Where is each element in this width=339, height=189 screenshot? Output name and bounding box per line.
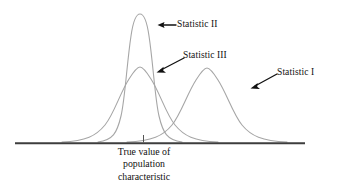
axis-caption-line-2: population	[84, 158, 204, 170]
axis-caption-line-3: characteristic	[84, 171, 204, 183]
arrow-statistic-i-icon	[251, 74, 278, 89]
arrow-statistic-iii-icon	[157, 58, 185, 73]
axis-caption-line-1: True value of	[84, 146, 204, 158]
label-statistic-ii: Statistic II	[177, 19, 218, 30]
curve-statistic-iii	[62, 67, 218, 142]
label-statistic-i: Statistic I	[277, 67, 314, 78]
curve-statistic-ii	[98, 14, 182, 142]
arrow-statistic-ii-icon	[158, 22, 177, 28]
sampling-distributions-figure: Statistic II Statistic III Statistic I T…	[0, 0, 339, 189]
label-statistic-iii: Statistic III	[183, 50, 227, 61]
axis-caption: True value of population characteristic	[84, 146, 204, 183]
